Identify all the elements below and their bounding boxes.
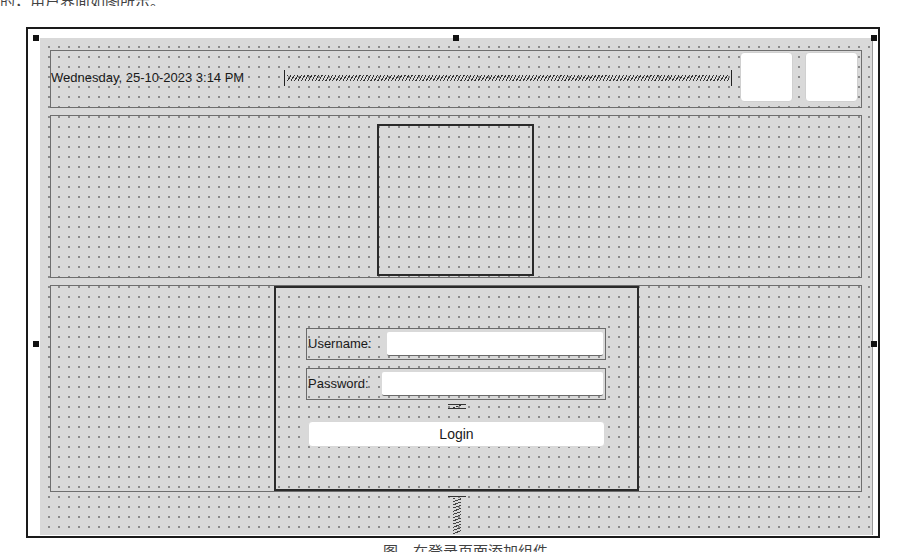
- password-input[interactable]: [382, 372, 603, 396]
- resize-handle-middle-left[interactable]: [33, 341, 39, 347]
- figure-caption: 图 在登录页面添加组件: [305, 540, 625, 552]
- vertical-spacer-small[interactable]: [448, 402, 466, 410]
- username-input[interactable]: [387, 332, 603, 356]
- spacer-spring-icon: [453, 498, 461, 534]
- vertical-spacer-bottom[interactable]: [448, 496, 466, 534]
- book-page: 的，用户界面如图所示。 Wednesday, 25-10-2023 3:14 P…: [0, 0, 911, 552]
- icon-button-1[interactable]: [740, 52, 793, 102]
- login-button[interactable]: Login: [308, 421, 605, 447]
- datetime-label: Wednesday, 25-10-2023 3:14 PM: [51, 68, 244, 88]
- spacer-cap: [448, 496, 466, 497]
- spacer-spring-icon: [287, 75, 729, 81]
- horizontal-spacer[interactable]: [284, 70, 732, 86]
- resize-handle-middle-right[interactable]: [871, 341, 877, 347]
- resize-handle-top-left[interactable]: [33, 35, 39, 41]
- logo-frame[interactable]: [377, 124, 534, 276]
- password-label: Password:: [308, 375, 369, 393]
- spacer-line-bottom: [448, 408, 466, 409]
- username-label: Username:: [308, 335, 372, 353]
- resize-handle-top-right[interactable]: [871, 35, 877, 41]
- spacer-end-right: [731, 70, 732, 86]
- resize-handle-top-center[interactable]: [453, 35, 459, 41]
- password-row: Password:: [306, 368, 606, 400]
- username-row: Username:: [306, 328, 606, 360]
- book-text-top: 的，用户界面如图所示。: [0, 0, 640, 6]
- spacer-end-left: [284, 70, 285, 86]
- icon-button-2[interactable]: [805, 52, 858, 102]
